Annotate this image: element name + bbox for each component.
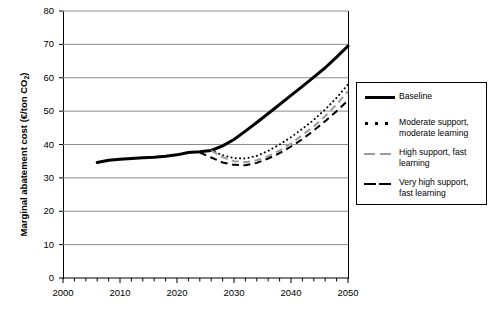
x-tick-label: 2000 (41, 287, 85, 298)
x-tick-label: 2010 (98, 287, 142, 298)
legend-label-high-support: High support, fast learning (399, 146, 466, 168)
legend-entry-baseline[interactable]: Baseline (357, 90, 488, 104)
legend-label-moderate-support: Moderate support, moderate learning (399, 116, 469, 138)
gridlines-group (63, 11, 348, 278)
legend-label-line2: learning (399, 158, 466, 169)
y-tick-label: 50 (0, 105, 54, 116)
series-line-1 (211, 84, 348, 158)
legend-label-baseline: Baseline (399, 90, 432, 102)
x-tick-label: 2040 (269, 287, 313, 298)
legend-entry-very-high-support[interactable]: Very high support, fast learning (357, 176, 488, 198)
series-line-0 (97, 46, 348, 162)
y-tick-label: 60 (0, 72, 54, 83)
x-tick-label: 2020 (155, 287, 199, 298)
y-tick-label: 30 (0, 172, 54, 183)
x-tick-label: 2030 (212, 287, 256, 298)
x-tick-marks-group (63, 278, 348, 283)
y-tick-label: 20 (0, 205, 54, 216)
y-tick-label: 70 (0, 38, 54, 49)
legend-entry-moderate-support[interactable]: Moderate support, moderate learning (357, 116, 488, 138)
y-tick-label: 0 (0, 272, 54, 283)
data-series-group (97, 46, 348, 165)
legend-label-line1: High support, fast (399, 147, 466, 158)
dotted-line-key (363, 116, 399, 130)
grey-dashed-line-key (363, 146, 399, 160)
y-tick-marks-group (59, 11, 63, 278)
y-tick-label: 80 (0, 5, 54, 16)
legend-label-very-high-support: Very high support, fast learning (399, 176, 468, 198)
chart-figure: Marginal abatement cost (€/ton CO2) 0102… (0, 0, 491, 310)
solid-line-key (363, 90, 399, 104)
legend-label-line1: Moderate support, (399, 117, 469, 128)
legend-label-line1: Very high support, (399, 177, 468, 188)
x-tick-label: 2050 (326, 287, 370, 298)
legend-label-line2: moderate learning (399, 128, 469, 139)
chart-legend: Baseline Moderate support, moderate lear… (356, 82, 487, 205)
legend-entry-high-support[interactable]: High support, fast learning (357, 146, 488, 168)
series-line-2 (211, 91, 348, 162)
y-tick-label: 10 (0, 239, 54, 250)
legend-label-line2: fast learning (399, 188, 468, 199)
y-tick-label: 40 (0, 139, 54, 150)
black-dashed-line-key (363, 176, 399, 190)
